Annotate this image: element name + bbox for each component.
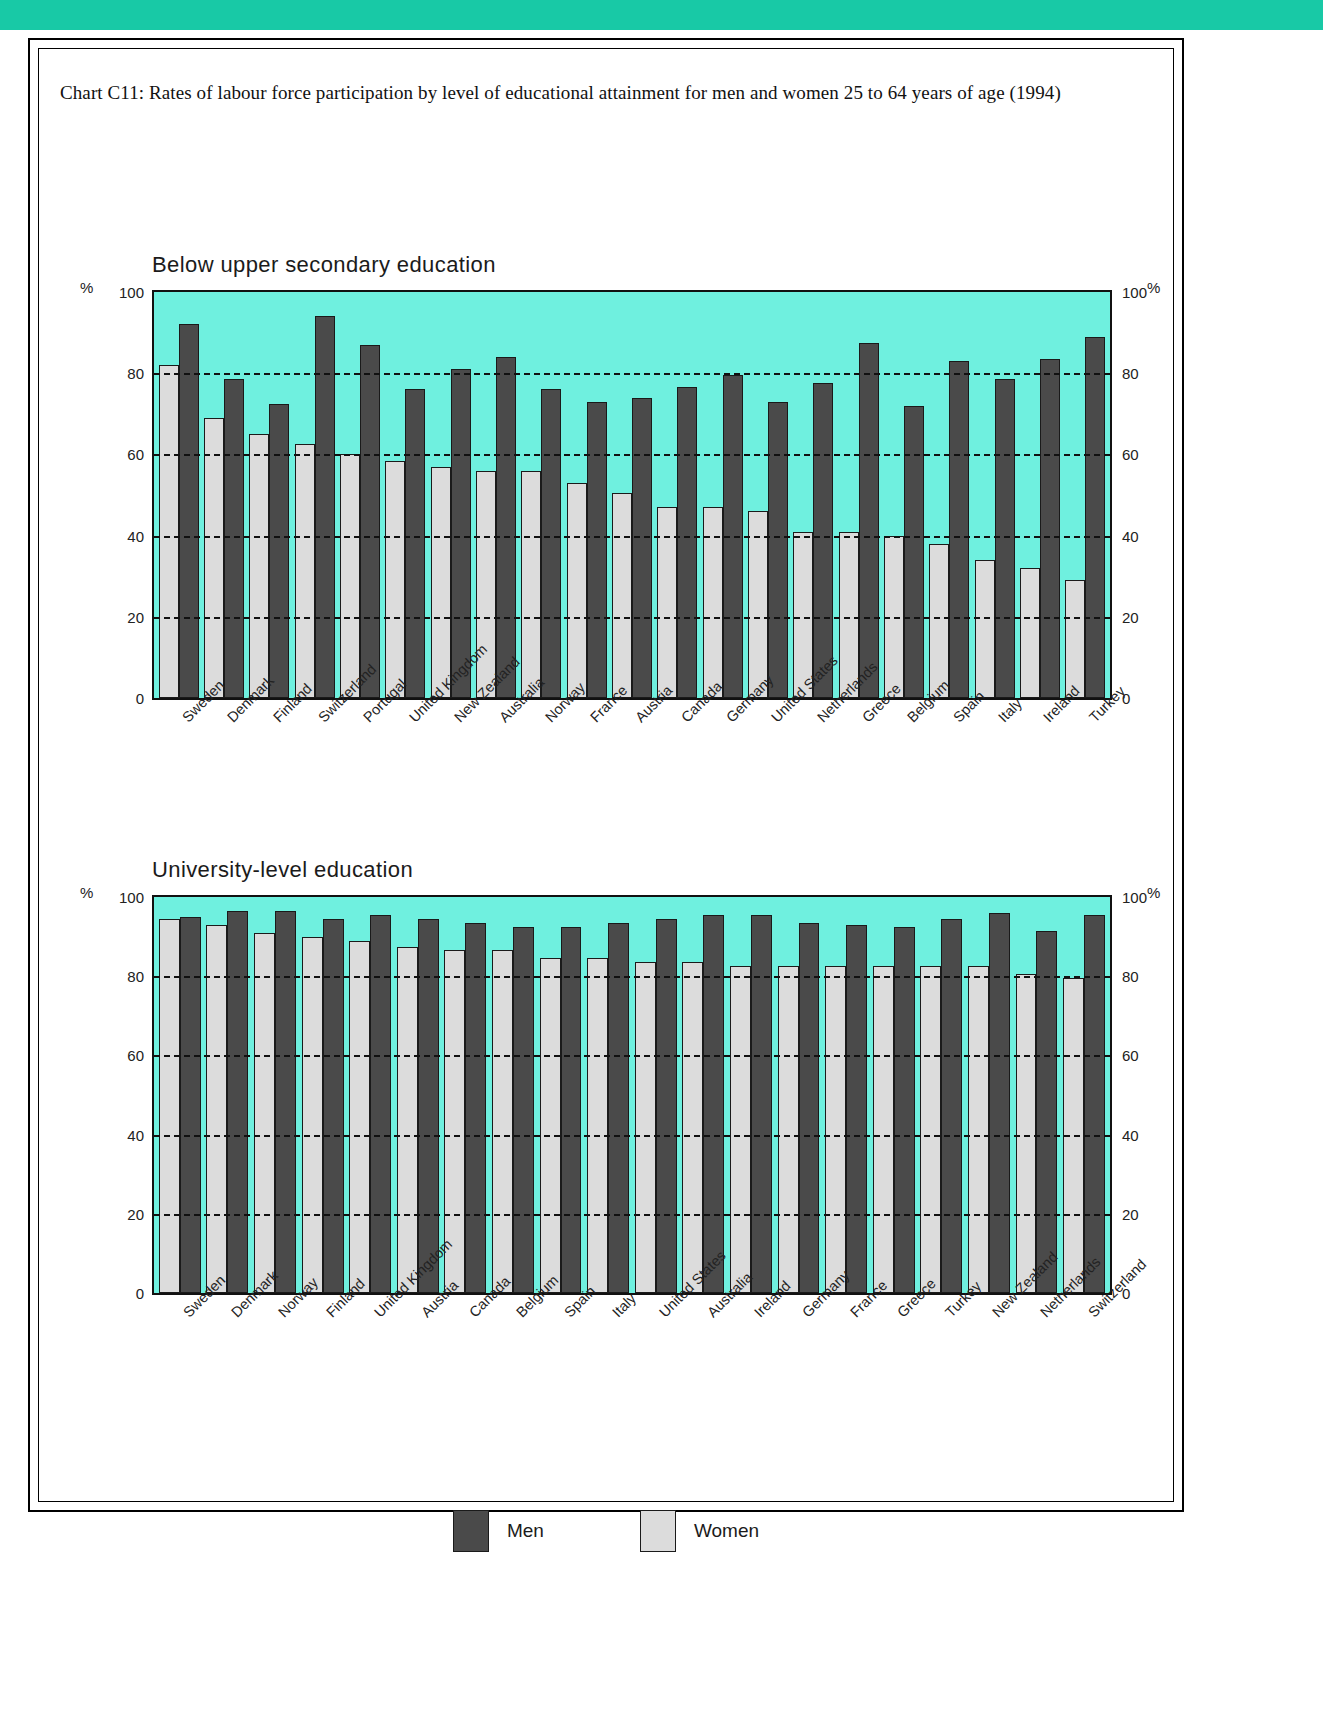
bar-women-netherlands [1016,974,1037,1293]
bar-group [299,897,347,1293]
bar-group [489,897,537,1293]
y-axis-tick-left-40: 40 [127,527,144,544]
bar-group [700,292,745,698]
legend-label-women: Women [694,1520,759,1542]
bar-women-france [825,966,846,1293]
page-frame: Chart C11: Rates of labour force partici… [28,38,1184,1512]
bar-women-portugal [340,454,360,698]
bar-women-belgium [884,536,904,698]
bar-men-switzerland [315,316,335,698]
bar-women-canada [657,507,677,698]
y-axis-tick-right-20: 20 [1122,1205,1139,1222]
bar-group [156,292,201,698]
bar-group [519,292,564,698]
chart-1-percent-left: % [80,279,93,296]
bar-women-switzerland [295,444,315,698]
bar-women-united-kingdom [385,461,405,699]
bar-men-united-states [656,919,677,1293]
top-accent-band [0,0,1323,30]
bar-men-greece [894,927,915,1293]
bar-men-united-states [768,402,788,698]
bar-men-finland [323,919,344,1293]
bar-men-netherlands [1036,931,1057,1293]
bar-women-sweden [159,919,180,1293]
y-axis-tick-left-0: 0 [136,1285,144,1302]
y-axis-tick-left-20: 20 [127,608,144,625]
bar-men-australia [703,915,724,1293]
bar-group [972,292,1017,698]
bar-women-france [567,483,587,698]
y-axis-tick-right-40: 40 [1122,1126,1139,1143]
bar-men-canada [465,923,486,1293]
bar-group [927,292,972,698]
bar-men-italy [995,379,1015,698]
bar-men-germany [723,375,743,698]
bar-men-turkey [941,919,962,1293]
bar-women-new-zealand [968,966,989,1293]
bar-women-united-kingdom [349,941,370,1293]
bar-men-canada [677,387,697,698]
bar-men-ireland [1040,359,1060,698]
bar-group [394,897,442,1293]
legend-item-men: Men [453,1510,544,1552]
bar-men-italy [608,923,629,1293]
chart-2-x-axis-labels: SwedenDenmarkNorwayFinlandUnited Kingdom… [152,1303,1112,1403]
bar-men-spain [561,927,582,1293]
bar-group [775,897,823,1293]
chart-legend: Men Women [30,1510,1182,1552]
bar-group [442,897,490,1293]
bar-women-australia [476,471,496,698]
page-title: Chart C11: Rates of labour force partici… [60,82,1160,104]
bar-women-turkey [1065,580,1085,698]
top-accent-band-inner [28,0,1133,30]
chart-2-heading: University-level education [152,857,413,883]
bar-women-finland [249,434,269,698]
bar-men-united-kingdom [405,389,425,698]
bar-women-greece [873,966,894,1293]
bar-men-new-zealand [451,369,471,698]
bar-group [1060,897,1108,1293]
bar-men-united-kingdom [370,915,391,1293]
bar-group [292,292,337,698]
bar-women-belgium [492,950,513,1293]
y-axis-tick-left-100: 100 [119,284,144,301]
y-axis-tick-right-80: 80 [1122,365,1139,382]
bar-women-norway [254,933,275,1293]
chart-1-x-axis-labels: SwedenDenmarkFinlandSwitzerlandPortugalU… [152,708,1112,808]
bar-men-france [587,402,607,698]
chart-1-plot-area: 002020404060608080100100 [152,290,1112,700]
chart-panel-university-level: University-level education % % 002020404… [152,895,1112,1295]
bar-group [836,292,881,698]
y-axis-tick-left-0: 0 [136,690,144,707]
bar-women-italy [975,560,995,698]
bar-group [727,897,775,1293]
bar-men-austria [418,919,439,1293]
bar-group [383,292,428,698]
bar-women-denmark [204,418,224,698]
legend-label-men: Men [507,1520,544,1542]
bar-men-denmark [224,379,244,698]
bar-group [584,897,632,1293]
bar-women-ireland [1020,568,1040,698]
bar-group [745,292,790,698]
bar-group [564,292,609,698]
bar-men-portugal [360,345,380,698]
bar-group [655,292,700,698]
y-axis-tick-left-60: 60 [127,446,144,463]
bar-group [1017,292,1062,698]
bar-women-spain [929,544,949,698]
y-axis-tick-right-80: 80 [1122,968,1139,985]
bar-women-sweden [159,365,179,698]
y-axis-tick-right-20: 20 [1122,608,1139,625]
bar-group [247,292,292,698]
bar-group [918,897,966,1293]
bar-men-new-zealand [989,913,1010,1293]
chart-2-percent-right: % [1147,884,1160,901]
bar-women-new-zealand [431,467,451,698]
bar-women-norway [521,471,541,698]
bar-men-turkey [1085,337,1105,698]
bar-group [870,897,918,1293]
bar-women-switzerland [1063,978,1084,1293]
bar-men-ireland [751,915,772,1293]
legend-swatch-women-icon [640,1510,676,1552]
